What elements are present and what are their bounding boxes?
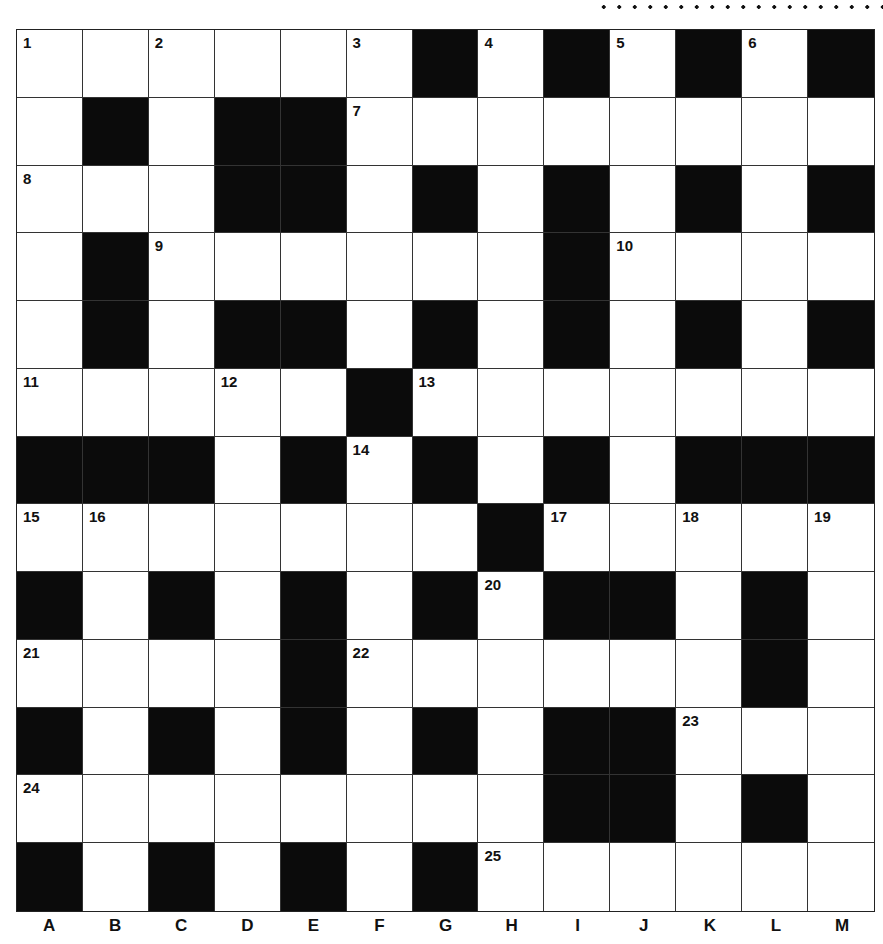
answer-square[interactable] (83, 640, 149, 708)
answer-square[interactable] (281, 504, 347, 572)
answer-square[interactable]: 3 (347, 30, 413, 98)
answer-square[interactable]: 23 (676, 708, 742, 776)
answer-square[interactable] (742, 301, 808, 369)
answer-square[interactable] (17, 98, 83, 166)
answer-square[interactable] (742, 708, 808, 776)
answer-square[interactable] (215, 640, 281, 708)
answer-square[interactable] (347, 166, 413, 234)
answer-square[interactable] (676, 572, 742, 640)
answer-square[interactable] (215, 504, 281, 572)
answer-square[interactable] (742, 233, 808, 301)
answer-square[interactable]: 21 (17, 640, 83, 708)
answer-square[interactable] (281, 369, 347, 437)
answer-square[interactable] (610, 301, 676, 369)
answer-square[interactable] (149, 775, 215, 843)
answer-square[interactable] (281, 30, 347, 98)
answer-square[interactable]: 10 (610, 233, 676, 301)
answer-square[interactable] (347, 301, 413, 369)
answer-square[interactable] (808, 708, 874, 776)
answer-square[interactable] (478, 98, 544, 166)
answer-square[interactable] (676, 369, 742, 437)
answer-square[interactable] (215, 437, 281, 505)
answer-square[interactable] (215, 843, 281, 911)
answer-square[interactable] (149, 166, 215, 234)
answer-square[interactable] (808, 369, 874, 437)
answer-square[interactable] (478, 437, 544, 505)
answer-square[interactable] (413, 640, 479, 708)
answer-square[interactable] (281, 233, 347, 301)
answer-square[interactable] (808, 775, 874, 843)
answer-square[interactable] (610, 166, 676, 234)
answer-square[interactable] (478, 775, 544, 843)
answer-square[interactable]: 8 (17, 166, 83, 234)
answer-square[interactable]: 22 (347, 640, 413, 708)
answer-square[interactable] (610, 98, 676, 166)
answer-square[interactable] (610, 843, 676, 911)
answer-square[interactable] (347, 843, 413, 911)
answer-square[interactable] (83, 572, 149, 640)
answer-square[interactable] (610, 504, 676, 572)
answer-square[interactable] (215, 233, 281, 301)
answer-square[interactable] (610, 640, 676, 708)
answer-square[interactable]: 25 (478, 843, 544, 911)
answer-square[interactable] (610, 369, 676, 437)
answer-square[interactable] (478, 301, 544, 369)
answer-square[interactable] (676, 233, 742, 301)
answer-square[interactable] (676, 843, 742, 911)
answer-square[interactable] (149, 640, 215, 708)
answer-square[interactable] (413, 775, 479, 843)
answer-square[interactable] (347, 708, 413, 776)
answer-square[interactable]: 16 (83, 504, 149, 572)
answer-square[interactable] (413, 98, 479, 166)
answer-square[interactable]: 12 (215, 369, 281, 437)
answer-square[interactable] (215, 775, 281, 843)
answer-square[interactable] (347, 233, 413, 301)
answer-square[interactable] (215, 30, 281, 98)
answer-square[interactable] (347, 775, 413, 843)
answer-square[interactable] (215, 708, 281, 776)
answer-square[interactable] (149, 369, 215, 437)
answer-square[interactable]: 15 (17, 504, 83, 572)
answer-square[interactable]: 14 (347, 437, 413, 505)
answer-square[interactable] (83, 843, 149, 911)
answer-square[interactable] (149, 301, 215, 369)
answer-square[interactable] (478, 640, 544, 708)
answer-square[interactable]: 4 (478, 30, 544, 98)
answer-square[interactable] (808, 98, 874, 166)
answer-square[interactable]: 13 (413, 369, 479, 437)
answer-square[interactable]: 20 (478, 572, 544, 640)
answer-square[interactable] (281, 775, 347, 843)
answer-square[interactable] (83, 775, 149, 843)
answer-square[interactable] (347, 572, 413, 640)
answer-square[interactable] (742, 504, 808, 572)
answer-square[interactable] (413, 233, 479, 301)
answer-square[interactable] (17, 301, 83, 369)
answer-square[interactable] (83, 30, 149, 98)
answer-square[interactable] (83, 369, 149, 437)
answer-square[interactable] (413, 504, 479, 572)
answer-square[interactable] (544, 843, 610, 911)
answer-square[interactable]: 1 (17, 30, 83, 98)
answer-square[interactable] (83, 166, 149, 234)
answer-square[interactable]: 7 (347, 98, 413, 166)
answer-square[interactable] (808, 640, 874, 708)
answer-square[interactable] (676, 640, 742, 708)
answer-square[interactable] (478, 369, 544, 437)
answer-square[interactable] (610, 437, 676, 505)
answer-square[interactable] (808, 572, 874, 640)
answer-square[interactable] (742, 98, 808, 166)
answer-square[interactable] (676, 775, 742, 843)
answer-square[interactable]: 5 (610, 30, 676, 98)
answer-square[interactable] (544, 98, 610, 166)
answer-square[interactable] (478, 233, 544, 301)
answer-square[interactable] (347, 504, 413, 572)
answer-square[interactable] (676, 98, 742, 166)
answer-square[interactable] (544, 369, 610, 437)
answer-square[interactable]: 17 (544, 504, 610, 572)
answer-square[interactable] (742, 369, 808, 437)
answer-square[interactable] (149, 98, 215, 166)
answer-square[interactable] (215, 572, 281, 640)
answer-square[interactable]: 18 (676, 504, 742, 572)
answer-square[interactable]: 9 (149, 233, 215, 301)
answer-square[interactable]: 11 (17, 369, 83, 437)
